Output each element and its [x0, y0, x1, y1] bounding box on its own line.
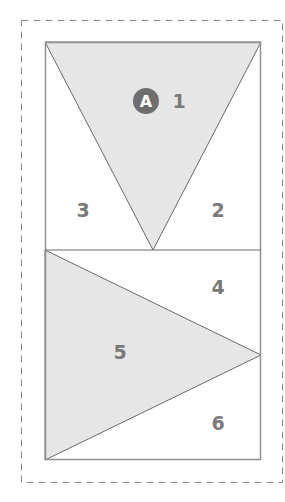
piece-label-1: 1 [172, 90, 185, 112]
badge-label: A [140, 92, 153, 111]
quilt-block-diagram: A 1 2 3 4 5 6 [0, 0, 285, 502]
piece-label-5: 5 [113, 341, 126, 363]
unit-a-badge: A [133, 88, 159, 114]
piece-label-4: 4 [211, 276, 224, 298]
piece-5-triangle [45, 250, 261, 460]
piece-label-3: 3 [76, 199, 89, 221]
piece-label-6: 6 [211, 412, 224, 434]
piece-label-2: 2 [211, 199, 224, 221]
